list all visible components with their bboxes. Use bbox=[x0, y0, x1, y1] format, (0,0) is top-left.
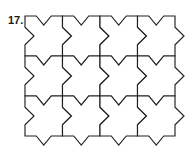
figure-canvas: 17. bbox=[0, 0, 187, 152]
tessellation-tile bbox=[138, 96, 185, 145]
tessellation-diagram bbox=[0, 0, 187, 152]
tessellation-tiles-group bbox=[25, 16, 184, 145]
